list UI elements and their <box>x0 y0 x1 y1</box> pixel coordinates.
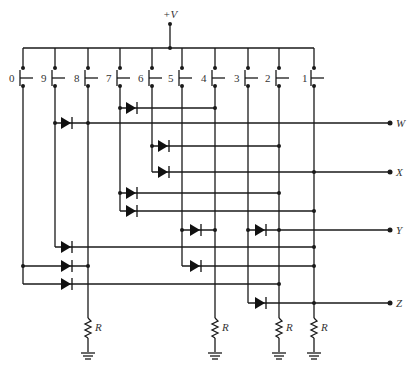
output-label: X <box>395 166 404 178</box>
switch-1[interactable]: 1 <box>302 48 324 88</box>
ground-icon <box>81 353 95 359</box>
resistor-icon <box>311 318 317 338</box>
ground-icon <box>272 353 286 359</box>
switch-0[interactable]: 0 <box>9 48 33 88</box>
diode-icon <box>190 224 200 236</box>
diode-row-3-to-Z <box>248 297 390 309</box>
diode-icon <box>190 260 200 272</box>
ground-icon <box>208 353 222 359</box>
switch-9[interactable]: 9 <box>41 48 65 88</box>
resistor-icon <box>276 318 282 338</box>
switch-6[interactable]: 6 <box>138 48 162 88</box>
diode-icon <box>158 166 168 178</box>
diode-row-5-to-1 <box>182 260 316 272</box>
resistor-label: R <box>285 321 293 333</box>
output-label: W <box>396 117 406 129</box>
switch-8[interactable]: 8 <box>74 48 98 88</box>
diode-row-9-to-1 <box>55 241 316 253</box>
diode-icon <box>61 260 71 272</box>
resistor-col-2: R <box>272 318 293 359</box>
output-Z: Z <box>388 297 404 309</box>
output-label: Y <box>396 224 404 236</box>
diode-encoder-circuit: +V 0 9 8 7 <box>0 0 418 376</box>
output-label: Z <box>396 297 403 309</box>
resistor-col-8: R <box>81 318 102 359</box>
diode-row-7-to-4 <box>118 102 217 114</box>
diode-row-6-to-X <box>152 166 390 178</box>
resistor-label: R <box>221 321 229 333</box>
diode-icon <box>61 241 71 253</box>
supply-terminal: +V <box>163 8 178 50</box>
switch-label: 4 <box>201 72 207 84</box>
switch-label: 6 <box>138 72 144 84</box>
output-X: X <box>388 166 405 178</box>
switch-label: 1 <box>302 72 308 84</box>
diode-icon <box>61 117 71 129</box>
diode-icon <box>126 205 136 217</box>
switch-2[interactable]: 2 <box>265 48 289 88</box>
resistor-label: R <box>320 321 328 333</box>
diode-row-3-to-Y <box>246 224 390 236</box>
switch-3[interactable]: 3 <box>234 48 258 88</box>
diode-icon <box>126 187 136 199</box>
switch-label: 0 <box>9 72 15 84</box>
diode-row-7-to-2 <box>118 187 281 199</box>
resistor-icon <box>85 318 91 338</box>
switch-label: 5 <box>168 72 174 84</box>
diode-row-7-to-1 <box>120 205 316 217</box>
switch-5[interactable]: 5 <box>168 48 192 88</box>
resistor-col-4: R <box>208 318 229 359</box>
diode-icon <box>255 297 265 309</box>
switch-label: 7 <box>106 72 112 84</box>
resistor-icon <box>212 318 218 338</box>
switch-label: 9 <box>41 72 47 84</box>
diode-icon <box>255 224 265 236</box>
diode-row-0-to-2 <box>23 278 281 290</box>
switch-label: 3 <box>234 72 240 84</box>
switch-label: 2 <box>265 72 271 84</box>
switch-7[interactable]: 7 <box>106 48 130 88</box>
diode-icon <box>158 140 168 152</box>
diode-row-9-to-W <box>53 117 390 129</box>
supply-label: +V <box>163 8 178 20</box>
ground-icon <box>307 353 321 359</box>
diode-row-0-to-8 <box>21 260 90 272</box>
resistor-col-1: R <box>307 318 328 359</box>
diode-icon <box>61 278 71 290</box>
diode-icon <box>126 102 136 114</box>
switch-4[interactable]: 4 <box>201 48 225 88</box>
resistor-label: R <box>94 321 102 333</box>
switch-label: 8 <box>74 72 80 84</box>
diode-row-5-to-4 <box>180 224 217 236</box>
output-Y: Y <box>388 224 405 236</box>
output-W: W <box>388 117 407 129</box>
